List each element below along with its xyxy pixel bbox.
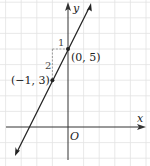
coordinate-graph: y x O (0, 5) (−1, 3) 1 2	[0, 0, 150, 166]
line-arrow-top-icon	[87, 3, 92, 12]
point-label-neg1-3: (−1, 3)	[11, 74, 50, 87]
x-axis-label: x	[137, 112, 144, 125]
point-neg1-3	[50, 78, 54, 82]
point-label-0-5: (0, 5)	[71, 51, 101, 64]
run-label: 1	[58, 37, 64, 48]
point-0-5	[66, 47, 70, 51]
origin-label: O	[70, 130, 79, 143]
rise-label: 2	[45, 60, 51, 71]
y-axis-label: y	[72, 2, 80, 15]
